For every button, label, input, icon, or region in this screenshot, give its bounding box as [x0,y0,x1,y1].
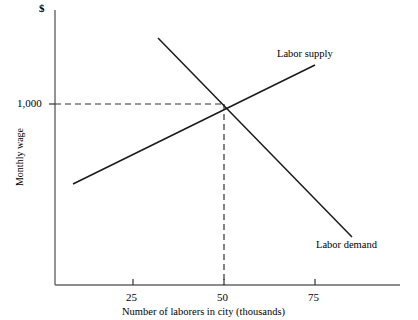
labor-demand-curve [158,38,352,237]
y-axis-title: Monthly wage [15,117,25,197]
x-axis-tick-label-75: 75 [308,292,319,303]
x-axis-title: Number of laborers in city (thousands) [122,307,285,318]
labor-demand-series-label: Labor demand [316,240,377,251]
chart-plot-area [0,0,418,320]
x-axis-tick-label-50: 50 [217,292,228,303]
y-axis-tick-label-1000: 1,000 [17,98,42,109]
x-axis-tick-label-25: 25 [126,292,137,303]
labor-supply-curve [73,65,315,184]
labor-supply-series-label: Labor supply [277,49,333,60]
labor-market-chart: $ 1,000 Monthly wage 25 50 75 Number of … [0,0,418,320]
y-axis-unit-symbol: $ [39,3,45,14]
